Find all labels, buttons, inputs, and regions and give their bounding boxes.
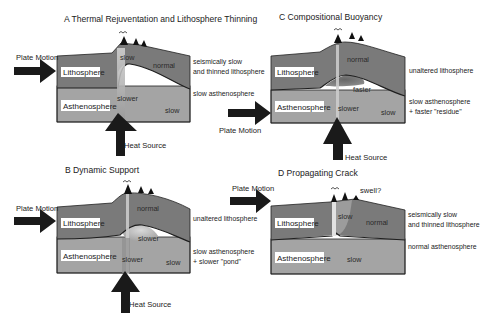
- zone-label: slow: [381, 108, 396, 117]
- zone-label: normal: [347, 55, 369, 64]
- lithosphere-label: Lithosphere: [63, 219, 105, 228]
- panel-a-title: A Thermal Rejuventation and Lithosphere …: [64, 14, 257, 24]
- panel-b-title: B Dynamic Support: [65, 165, 140, 175]
- zone-label: slower: [122, 255, 143, 264]
- plume-icon: [123, 181, 131, 183]
- annotation-label: + faster "residue": [409, 108, 462, 115]
- annotation-label: slow asthenosphere: [193, 90, 254, 98]
- zone-label: slower: [117, 94, 138, 103]
- plate-motion-arrow-icon: [14, 59, 56, 83]
- figure-canvas: A Thermal Rejuventation and Lithosphere …: [0, 0, 490, 313]
- annotation-label: and thinned lithosphere: [408, 221, 480, 229]
- panel-d-title: D Propagating Crack: [278, 168, 358, 178]
- plume-icon: [119, 32, 127, 34]
- plate-motion-label: Plate Motion: [16, 53, 58, 62]
- zone-label: slower: [138, 234, 159, 243]
- plate-motion-label: Plate Motion: [232, 184, 274, 193]
- asthenosphere-label: Asthenosphere: [63, 102, 117, 111]
- zone-label: slower: [338, 104, 359, 113]
- asthenosphere-label: Asthenosphere: [63, 252, 117, 261]
- plate-motion-label: Plate Motion: [219, 126, 261, 135]
- annotation-label: slow asthenosphere: [409, 98, 470, 106]
- plate-motion-arrow-icon: [228, 101, 271, 125]
- plume-icon: [331, 188, 339, 190]
- annotation-label: unaltered lithosphere: [193, 215, 258, 223]
- zone-label: slow: [166, 258, 181, 267]
- annotation-label: normal asthenosphere: [408, 243, 477, 251]
- zone-label: slow: [120, 53, 135, 62]
- asthenosphere-label: Asthenosphere: [277, 103, 331, 112]
- swell-label: swell?: [360, 186, 381, 195]
- panel-c: C Compositional Buoyancy Lithosphere Ast…: [219, 12, 474, 162]
- asthenosphere-label: Asthenosphere: [277, 254, 331, 263]
- zone-label: slow: [338, 212, 353, 221]
- zone-label: normal: [137, 204, 159, 213]
- annotation-label: slow asthenosphere: [193, 248, 254, 256]
- annotation-label: seismically slow: [193, 58, 242, 66]
- crack: [332, 202, 336, 236]
- lithosphere-label: Lithosphere: [63, 68, 105, 77]
- zone-label: slow: [165, 106, 180, 115]
- plume-icon: [334, 29, 342, 31]
- lithosphere-label: Lithosphere: [277, 68, 319, 77]
- annotation-label: unaltered lithosphere: [409, 67, 474, 75]
- lithosphere-label: Lithosphere: [277, 219, 319, 228]
- volcano-icon: [124, 184, 154, 194]
- annotation-label: seismically slow: [408, 211, 457, 219]
- panel-d: D Propagating Crack swell? Lithosphere A…: [230, 168, 480, 274]
- panel-c-title: C Compositional Buoyancy: [279, 12, 383, 22]
- plate-motion-label: Plate Motion: [16, 204, 58, 213]
- panel-b: B Dynamic Support Lithosphere Asthenosph…: [14, 165, 258, 313]
- zone-label: faster: [353, 85, 372, 94]
- volcano-icon: [334, 32, 364, 43]
- heat-source-label: Heat Source: [124, 141, 166, 150]
- zone-label: slow: [347, 255, 362, 264]
- zone-label: normal: [153, 61, 175, 70]
- annotation-label: + slower "pond": [193, 258, 242, 266]
- heat-source-label: Heat Source: [345, 153, 387, 162]
- annotation-label: and thinned lithosphere: [193, 68, 265, 76]
- zone-label: normal: [366, 218, 388, 227]
- heat-source-label: Heat Source: [129, 300, 171, 309]
